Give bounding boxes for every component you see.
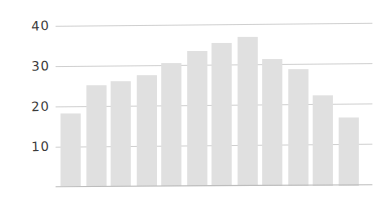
bar-chart: 10203040 bbox=[0, 0, 377, 207]
bar bbox=[238, 37, 258, 186]
bar bbox=[61, 113, 81, 186]
bar bbox=[161, 63, 181, 186]
y-tick-label: 30 bbox=[31, 58, 50, 74]
y-tick-label: 40 bbox=[31, 18, 50, 34]
bar bbox=[288, 69, 308, 186]
bar bbox=[187, 51, 207, 186]
bar bbox=[111, 81, 131, 186]
chart-canvas: 10203040 bbox=[0, 0, 377, 207]
bar bbox=[86, 85, 106, 186]
y-tick-label: 20 bbox=[31, 98, 50, 114]
bar bbox=[313, 95, 333, 186]
bar bbox=[339, 117, 359, 186]
bar bbox=[262, 59, 282, 186]
bar bbox=[212, 43, 232, 186]
y-tick-label: 10 bbox=[31, 139, 50, 155]
bar bbox=[137, 75, 157, 186]
